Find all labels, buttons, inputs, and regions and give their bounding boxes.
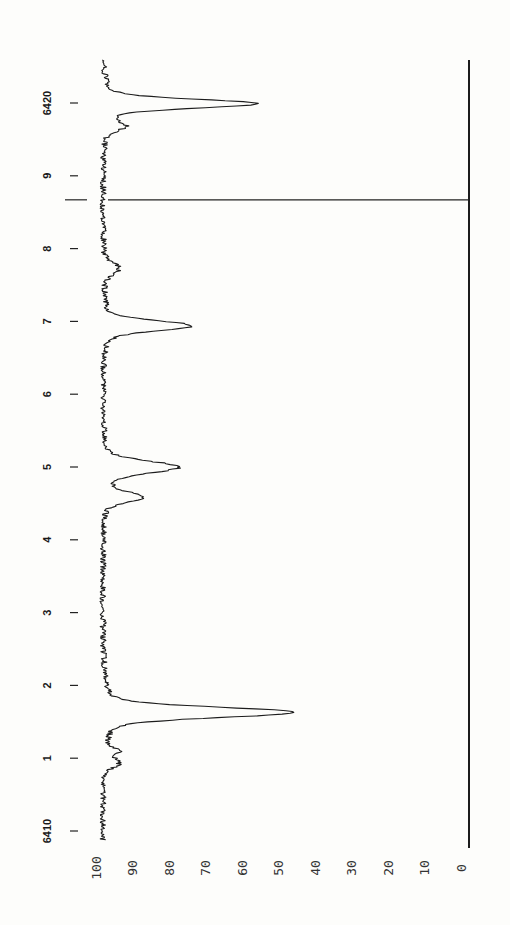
x-tick-label-6: 6 bbox=[41, 391, 53, 397]
x-tick-label-5: 5 bbox=[41, 464, 53, 470]
spectrum-chart: 64101234567896420 1009080706050403020100 bbox=[0, 0, 510, 925]
y-tick-label-50: 50 bbox=[271, 860, 286, 876]
y-tick-label-70: 70 bbox=[198, 860, 213, 876]
x-tick-label-3: 3 bbox=[41, 610, 53, 616]
intensity-axis-labels: 1009080706050403020100 bbox=[89, 856, 469, 879]
x-tick-label-8: 8 bbox=[41, 246, 53, 252]
y-tick-label-10: 10 bbox=[417, 860, 432, 876]
y-tick-label-40: 40 bbox=[308, 860, 323, 876]
y-tick-label-60: 60 bbox=[235, 860, 250, 876]
x-tick-label-9: 9 bbox=[41, 173, 53, 179]
x-tick-label-4: 4 bbox=[41, 536, 53, 543]
y-tick-label-80: 80 bbox=[162, 860, 177, 876]
x-tick-label-1: 1 bbox=[41, 755, 53, 761]
spectrum-trace bbox=[100, 60, 294, 840]
x-tick-label-6410: 6410 bbox=[41, 819, 53, 843]
x-tick-label-2: 2 bbox=[41, 682, 53, 688]
y-tick-label-100: 100 bbox=[89, 856, 104, 879]
wavelength-axis-ticks: 64101234567896420 bbox=[41, 91, 78, 843]
x-tick-label-6420: 6420 bbox=[41, 91, 53, 115]
x-tick-label-7: 7 bbox=[41, 318, 53, 324]
y-tick-label-30: 30 bbox=[344, 860, 359, 876]
y-tick-label-20: 20 bbox=[381, 860, 396, 876]
y-tick-label-0: 0 bbox=[454, 864, 469, 872]
y-tick-label-90: 90 bbox=[125, 860, 140, 876]
